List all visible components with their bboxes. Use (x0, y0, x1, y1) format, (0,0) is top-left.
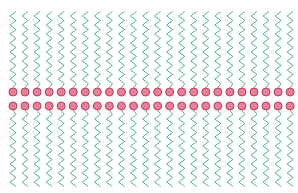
outer-leaflet-head (33, 88, 41, 96)
inner-leaflet-tail (251, 110, 257, 187)
outer-leaflet-tail (118, 12, 124, 89)
inner-leaflet-head (57, 102, 65, 110)
inner-leaflet-tail (155, 110, 161, 187)
inner-leaflet-head (286, 102, 294, 110)
inner-leaflet-tail (34, 110, 40, 187)
inner-leaflet-tail (167, 110, 173, 187)
outer-leaflet-head (93, 88, 101, 96)
outer-leaflet-head (250, 88, 258, 96)
outer-leaflet-tail (106, 12, 112, 89)
inner-leaflet-head (33, 102, 41, 110)
inner-leaflet-tail (82, 110, 88, 187)
outer-leaflet-head (190, 88, 198, 96)
inner-leaflet-head (142, 102, 150, 110)
inner-leaflet-tail (106, 110, 112, 187)
outer-leaflet-tail (287, 12, 293, 89)
inner-leaflet-head (214, 102, 222, 110)
outer-leaflet-tail (251, 12, 257, 89)
inner-leaflet-head (178, 102, 186, 110)
outer-leaflet-tail (58, 12, 64, 89)
inner-leaflet-tail (203, 110, 209, 187)
outer-leaflet-tail (179, 12, 185, 89)
outer-leaflet-head (105, 88, 113, 96)
outer-leaflet-tail (167, 12, 173, 89)
inner-leaflet-tail (287, 110, 293, 187)
inner-leaflet-head (69, 102, 77, 110)
inner-leaflet-head (45, 102, 53, 110)
inner-leaflet-tail (143, 110, 149, 187)
outer-leaflet-tail (203, 12, 209, 89)
outer-leaflet-tail (94, 12, 100, 89)
inner-leaflet-tail (239, 110, 245, 187)
inner-leaflet-tail (10, 110, 16, 187)
inner-leaflet-tail (46, 110, 52, 187)
outer-leaflet-head (274, 88, 282, 96)
outer-leaflet-head (154, 88, 162, 96)
inner-leaflet-head (154, 102, 162, 110)
outer-leaflet-tail (22, 12, 28, 89)
outer-leaflet-head (117, 88, 125, 96)
inner-leaflet-tail (263, 110, 269, 187)
outer-leaflet-tail (155, 12, 161, 89)
outer-leaflet-tail (275, 12, 281, 89)
outer-leaflet-head (166, 88, 174, 96)
inner-leaflet-head (166, 102, 174, 110)
lipid-tails (10, 12, 293, 187)
inner-leaflet-tail (118, 110, 124, 187)
outer-leaflet-head (286, 88, 294, 96)
inner-leaflet-tail (94, 110, 100, 187)
inner-leaflet-tail (22, 110, 28, 187)
outer-leaflet-head (81, 88, 89, 96)
outer-leaflet-tail (10, 12, 16, 89)
inner-leaflet-tail (70, 110, 76, 187)
inner-leaflet-head (21, 102, 29, 110)
inner-leaflet-tail (131, 110, 137, 187)
inner-leaflet-tail (275, 110, 281, 187)
inner-leaflet-head (250, 102, 258, 110)
outer-leaflet-head (214, 88, 222, 96)
outer-leaflet-tail (143, 12, 149, 89)
inner-leaflet-head (262, 102, 270, 110)
outer-leaflet-head (21, 88, 29, 96)
outer-leaflet-head (130, 88, 138, 96)
inner-leaflet-head (202, 102, 210, 110)
outer-leaflet-head (69, 88, 77, 96)
inner-leaflet-head (105, 102, 113, 110)
outer-leaflet-head (262, 88, 270, 96)
inner-leaflet-tail (179, 110, 185, 187)
inner-leaflet-head (117, 102, 125, 110)
lipid-heads (9, 88, 294, 110)
outer-leaflet-tail (131, 12, 137, 89)
outer-leaflet-tail (70, 12, 76, 89)
outer-leaflet-head (45, 88, 53, 96)
outer-leaflet-tail (34, 12, 40, 89)
outer-leaflet-tail (227, 12, 233, 89)
outer-leaflet-head (178, 88, 186, 96)
outer-leaflet-head (142, 88, 150, 96)
outer-leaflet-tail (191, 12, 197, 89)
lipid-bilayer-diagram (0, 0, 298, 193)
outer-leaflet-head (226, 88, 234, 96)
inner-leaflet-head (130, 102, 138, 110)
outer-leaflet-head (202, 88, 210, 96)
inner-leaflet-head (274, 102, 282, 110)
inner-leaflet-head (226, 102, 234, 110)
outer-leaflet-tail (82, 12, 88, 89)
outer-leaflet-tail (46, 12, 52, 89)
inner-leaflet-head (238, 102, 246, 110)
inner-leaflet-head (9, 102, 17, 110)
inner-leaflet-tail (215, 110, 221, 187)
outer-leaflet-head (238, 88, 246, 96)
inner-leaflet-head (190, 102, 198, 110)
outer-leaflet-tail (239, 12, 245, 89)
inner-leaflet-head (93, 102, 101, 110)
outer-leaflet-head (9, 88, 17, 96)
inner-leaflet-tail (58, 110, 64, 187)
outer-leaflet-tail (263, 12, 269, 89)
inner-leaflet-head (81, 102, 89, 110)
inner-leaflet-tail (191, 110, 197, 187)
outer-leaflet-tail (215, 12, 221, 89)
inner-leaflet-tail (227, 110, 233, 187)
outer-leaflet-head (57, 88, 65, 96)
